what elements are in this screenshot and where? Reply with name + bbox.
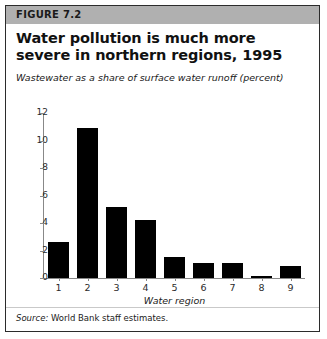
x-tick-label: 7 [219,282,247,293]
source-label: Source: [16,313,48,323]
bar [222,263,243,278]
x-tick-label: 6 [190,282,218,293]
bar [164,257,185,278]
figure-panel: FIGURE 7.2 Water pollution is much more … [5,5,320,332]
bar [48,242,69,278]
bar-column [160,113,189,278]
source-text: World Bank staff estimates. [51,313,168,323]
bar-series [44,113,305,278]
x-tick-mark [291,278,292,281]
bar-column [44,113,73,278]
figure-subtitle: Wastewater as a share of surface water r… [16,72,309,84]
x-tick-label: 1 [45,282,73,293]
bar [193,263,214,278]
x-tick-label: 5 [161,282,189,293]
x-tick-mark [117,278,118,281]
bar-column [276,113,305,278]
figure-title: Water pollution is much more severe in n… [16,30,309,64]
bar-column [102,113,131,278]
figure-number-label: FIGURE 7.2 [16,9,82,20]
chart-plot-area: 024681012 123456789 Water region [16,106,311,306]
x-tick-mark [88,278,89,281]
x-axis-title: Water region [44,295,305,306]
figure-header-band: FIGURE 7.2 [6,6,319,24]
x-tick-label: 9 [277,282,305,293]
source-divider [6,307,319,308]
x-tick-mark [175,278,176,281]
bar-column [189,113,218,278]
bar-column [131,113,160,278]
bar [135,220,156,278]
x-tick-mark [204,278,205,281]
y-tick-mark [40,278,44,279]
x-tick-mark [146,278,147,281]
source-note: Source: World Bank staff estimates. [16,313,168,323]
x-tick-label: 4 [132,282,160,293]
bar [280,266,301,278]
bar-column [73,113,102,278]
x-tick-label: 2 [74,282,102,293]
bar [106,207,127,279]
bar [77,128,98,278]
bar-column [218,113,247,278]
bar-column [247,113,276,278]
x-tick-mark [262,278,263,281]
x-tick-mark [59,278,60,281]
x-tick-label: 3 [103,282,131,293]
x-tick-label: 8 [248,282,276,293]
x-tick-mark [233,278,234,281]
